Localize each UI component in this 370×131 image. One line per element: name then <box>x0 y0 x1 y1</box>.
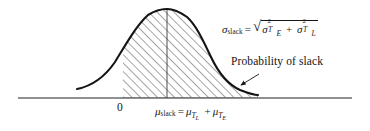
annotation-arrow <box>241 74 259 85</box>
zero-tick-label: 0 <box>117 102 123 114</box>
sigma-term1-exponent: 2 <box>268 17 272 25</box>
sigma-term2-subscript-main: T <box>303 25 307 34</box>
mu-term1-subscript-minor: L <box>195 114 199 121</box>
sigma-term1-indices: 2 T <box>268 21 277 33</box>
mu-slack-equation: μslack = μTL + μTE <box>155 105 229 117</box>
radical-sign: √ <box>253 20 261 35</box>
radicand: σ 2 T E + σ 2 T L <box>261 20 317 35</box>
mu-term1-indices: TL <box>192 105 203 117</box>
sigma-term2-subscript-minor: L <box>311 29 315 38</box>
mu-term2-indices: TE <box>218 105 229 117</box>
sigma-term1-subscript-minor: E <box>277 29 282 38</box>
slack-distribution-figure: Probability of slack 0 σslack = √ σ 2 T … <box>0 0 370 131</box>
sigma-equals-sign: = <box>243 23 253 35</box>
sigma-plus-sign: + <box>284 23 294 35</box>
mu-plus-sign: + <box>203 105 213 117</box>
mu-equals-sign: = <box>176 105 186 117</box>
mu-subscript: slack <box>161 110 176 118</box>
probability-of-slack-label: Probability of slack <box>231 56 323 68</box>
sigma-term2-exponent: 2 <box>302 17 306 25</box>
sigma-subscript: slack <box>227 28 242 36</box>
sigma-term1-subscript-main: T <box>268 25 272 34</box>
sigma-slack-equation: σslack = √ σ 2 T E + σ 2 T L <box>222 21 318 36</box>
mu-term2-subscript-minor: E <box>222 114 226 121</box>
square-root-group: √ σ 2 T E + σ 2 T L <box>253 21 318 36</box>
